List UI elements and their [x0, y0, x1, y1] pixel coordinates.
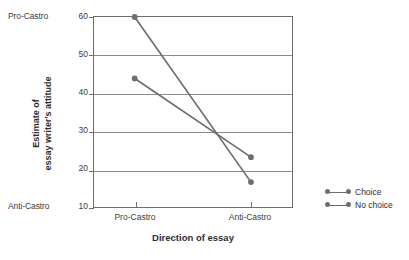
legend-item-choice[interactable]: Choice — [325, 186, 407, 198]
y-tick-label: 10 — [66, 201, 88, 211]
x-axis-title: Direction of essay — [93, 232, 293, 243]
series-line-choice — [135, 17, 251, 182]
y-tick-label: 20 — [66, 163, 88, 173]
legend-line-swatch-icon — [325, 200, 351, 210]
legend-label: No choice — [355, 200, 393, 210]
x-tick-label-pro-castro: Pro-Castro — [114, 212, 155, 222]
plot-area — [93, 16, 293, 208]
line-chart-figure: Pro-Castro Anti-Castro Estimate of essay… — [0, 0, 409, 260]
data-point — [248, 154, 254, 160]
chart-legend: Choice No choice — [325, 186, 407, 212]
legend-line-swatch-icon — [325, 187, 351, 197]
y-axis-tick-labels: 60 50 40 30 20 10 — [64, 0, 88, 260]
legend-label: Choice — [355, 187, 381, 197]
y-tick-label: 60 — [66, 11, 88, 21]
y-tick-label: 30 — [66, 125, 88, 135]
data-point — [132, 76, 138, 82]
y-tick-label: 40 — [66, 87, 88, 97]
y-axis-end-label-bottom: Anti-Castro — [8, 201, 49, 211]
data-point — [248, 179, 254, 185]
y-axis-end-label-top: Pro-Castro — [8, 11, 48, 21]
data-series-layer — [94, 17, 294, 209]
y-tick-label: 50 — [66, 49, 88, 59]
data-point — [132, 14, 138, 20]
series-line-no-choice — [135, 78, 251, 157]
y-axis-title: Estimate of essay writer's attitude — [31, 49, 54, 199]
legend-item-no-choice[interactable]: No choice — [325, 199, 407, 211]
x-tick-label-anti-castro: Anti-Castro — [229, 212, 272, 222]
